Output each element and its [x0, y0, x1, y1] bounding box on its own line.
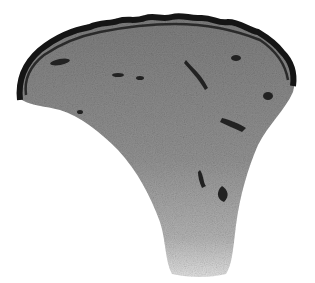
tissue-section: [0, 0, 315, 283]
dermis: [22, 16, 295, 277]
